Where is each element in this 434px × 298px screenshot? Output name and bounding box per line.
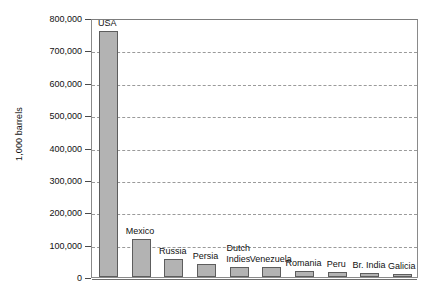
bar (295, 271, 314, 277)
y-tick-label: 200,000 (12, 208, 82, 218)
y-axis-title: 1,000 barrels (14, 84, 24, 184)
y-tick-label: 800,000 (12, 14, 82, 24)
bar-label: Dutch (226, 243, 250, 253)
bar-label: Peru (327, 259, 346, 269)
bar-label: Persia (193, 251, 219, 261)
bar-label: Mexico (126, 226, 155, 236)
gridline-700000 (92, 52, 417, 53)
gridline-0 (92, 279, 417, 280)
plot-frame (91, 19, 418, 278)
y-tick-label: 0 (12, 273, 82, 283)
bar (360, 273, 379, 277)
bar (230, 267, 249, 277)
bar-label: Russia (159, 246, 187, 256)
bar-chart: 1,000 barrels 800,000700,000600,000500,0… (0, 0, 434, 298)
plot-area (92, 20, 417, 277)
gridline-300000 (92, 182, 417, 183)
bar-label: Br. India (352, 260, 385, 270)
y-tick-0 (85, 278, 91, 279)
gridline-600000 (92, 85, 417, 86)
bar (132, 239, 151, 277)
y-tick-label: 400,000 (12, 144, 82, 154)
y-tick-label: 100,000 (12, 241, 82, 251)
bar-label: Indies (226, 254, 250, 264)
bar-label: Galicia (388, 261, 416, 271)
bar (262, 267, 281, 277)
bar-label: USA (98, 18, 117, 28)
y-tick-label: 500,000 (12, 111, 82, 121)
gridline-400000 (92, 150, 417, 151)
gridline-200000 (92, 214, 417, 215)
bar (393, 274, 412, 277)
bar (99, 31, 118, 277)
bar (328, 272, 347, 277)
gridline-500000 (92, 117, 417, 118)
bar-label: Romania (286, 258, 322, 268)
bar (164, 259, 183, 277)
bar (197, 264, 216, 277)
y-tick-label: 600,000 (12, 79, 82, 89)
y-tick-label: 300,000 (12, 176, 82, 186)
y-tick-label: 700,000 (12, 46, 82, 56)
